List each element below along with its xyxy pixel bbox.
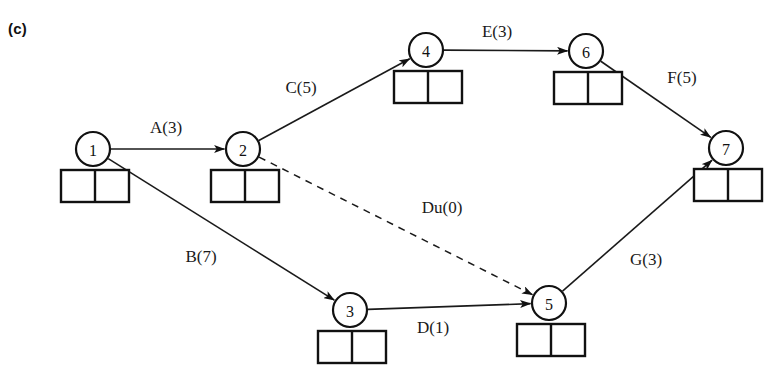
node-4: 4 xyxy=(394,33,462,103)
edge-line-du xyxy=(259,157,532,295)
node-3: 3 xyxy=(318,293,386,363)
edge-label-d: D(1) xyxy=(417,318,449,337)
edge-label-f: F(5) xyxy=(667,68,696,87)
edge-label-b: B(7) xyxy=(185,247,216,266)
edge-label-du: Du(0) xyxy=(422,198,463,217)
edge-e xyxy=(444,50,568,51)
network-diagram: 1234567 A(3)B(7)C(5)D(1)E(3)F(5)G(3)Du(0… xyxy=(0,0,774,378)
node-6-label: 6 xyxy=(582,44,590,61)
node-1: 1 xyxy=(61,132,129,202)
node-3-label: 3 xyxy=(346,303,354,320)
node-5-label: 5 xyxy=(545,296,553,313)
edge-line-e xyxy=(444,50,568,51)
edge-label-a: A(3) xyxy=(150,118,182,137)
edge-du xyxy=(259,157,532,295)
edge-label-g: G(3) xyxy=(630,250,662,269)
node-5: 5 xyxy=(517,286,585,356)
node-2: 2 xyxy=(211,132,279,202)
node-2-label: 2 xyxy=(239,142,247,159)
node-7: 7 xyxy=(694,131,762,201)
node-1-label: 1 xyxy=(89,142,97,159)
edge-label-c: C(5) xyxy=(285,78,316,97)
figure-canvas: (c) 1234567 A(3)B(7)C(5)D(1)E(3)F(5)G(3)… xyxy=(0,0,774,378)
edge-label-e: E(3) xyxy=(482,22,512,41)
edge-line-d xyxy=(368,304,531,310)
node-7-label: 7 xyxy=(722,141,730,158)
edge-d xyxy=(368,304,531,310)
nodes-layer: 1234567 xyxy=(61,33,762,363)
edge-line-g xyxy=(563,160,713,291)
node-4-label: 4 xyxy=(422,43,430,60)
edge-g xyxy=(563,160,713,291)
edge-c xyxy=(259,59,410,141)
edge-line-c xyxy=(259,59,410,141)
